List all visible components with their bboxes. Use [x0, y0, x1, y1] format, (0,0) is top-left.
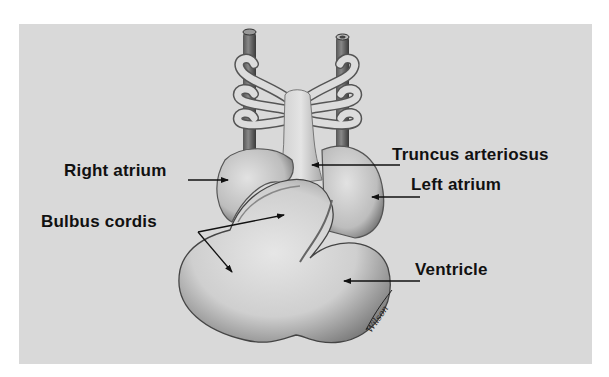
label-right-atrium: Right atrium [64, 161, 167, 181]
label-left-atrium: Left atrium [411, 175, 501, 195]
embryonic-heart-illustration [0, 0, 609, 377]
label-truncus-arteriosus: Truncus arteriosus [392, 145, 549, 165]
label-ventricle: Ventricle [415, 260, 488, 280]
label-bulbus-cordis: Bulbus cordis [41, 212, 157, 232]
